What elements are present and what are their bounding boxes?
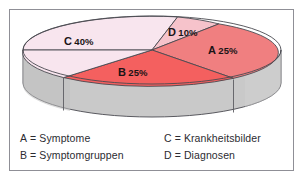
legend-entry-a: A=Symptome [20,130,124,147]
figure-canvas: C40% D10% A25% B25% A=Symptome B=Symptom… [0,0,305,181]
pie-label-d-percent: 10% [178,27,198,38]
pie-label-a: A25% [208,40,238,58]
pie-label-b-percent: 25% [128,67,148,78]
pie-label-b: B25% [118,62,148,80]
legend-entry-c-key: C [164,132,172,144]
pie-label-c-key: C [64,35,72,47]
legend-entry-d-separator: = [175,149,181,161]
pie-label-d-key: D [168,26,176,38]
legend-entry-a-separator: = [30,132,36,144]
pie-label-c: C40% [64,31,94,49]
legend-entry-c-separator: = [175,132,181,144]
legend-entry-b: B=Symptomgruppen [20,147,124,164]
legend-entry-a-label: Symptome [39,132,90,144]
legend-entry-b-key: B [20,149,27,161]
legend-entry-d-label: Diagnosen [184,149,235,161]
pie-label-b-key: B [118,66,126,78]
pie-label-a-percent: 25% [218,45,238,56]
pie-label-a-key: A [208,44,216,56]
legend-entry-c-label: Krankheitsbilder [184,132,261,144]
legend-entry-d: D=Diagnosen [164,147,261,164]
pie-label-c-percent: 40% [74,36,94,47]
legend-entry-b-label: Symptomgruppen [39,149,123,161]
legend-entry-b-separator: = [30,149,36,161]
pie-label-d: D10% [168,22,198,40]
legend-entry-c: C=Krankheitsbilder [164,130,261,147]
legend-entry-d-key: D [164,149,172,161]
legend-column-right: C=Krankheitsbilder D=Diagnosen [164,130,261,164]
legend-column-left: A=Symptome B=Symptomgruppen [20,130,124,164]
chart-legend: A=Symptome B=Symptomgruppen C=Krankheits… [20,130,286,164]
legend-entry-a-key: A [20,132,27,144]
